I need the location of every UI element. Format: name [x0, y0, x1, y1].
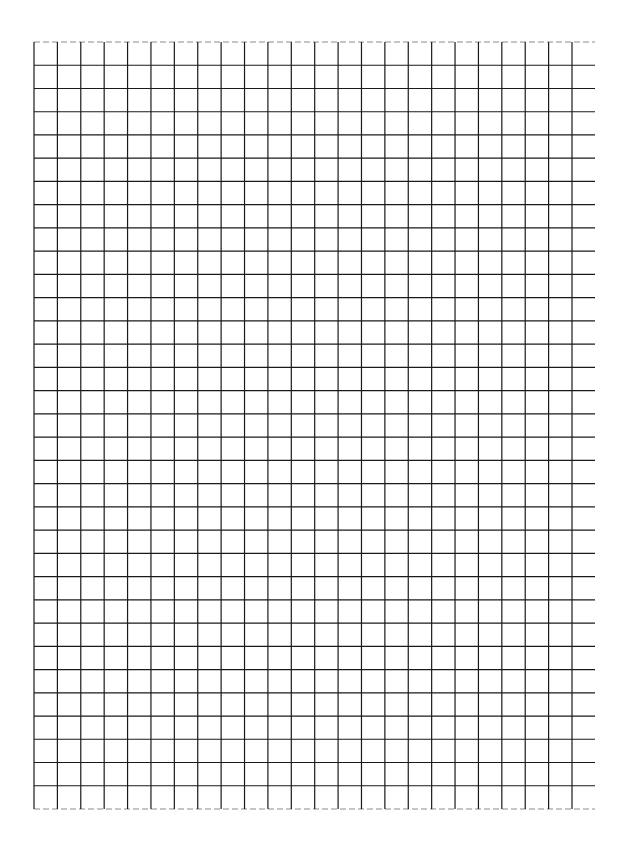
graph-paper-grid: [0, 0, 626, 849]
